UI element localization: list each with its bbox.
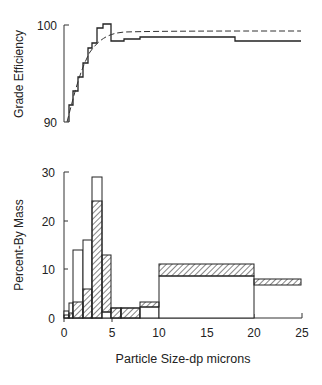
top-y-axis-label: Grade Efficiency xyxy=(12,30,26,118)
x-axis-label: Particle Size-dp microns xyxy=(116,352,251,366)
hatched-bar xyxy=(64,315,69,318)
top-ytick-100: 100 xyxy=(37,19,57,33)
hatched-bar xyxy=(102,255,111,312)
xtick-25: 25 xyxy=(295,326,309,340)
hatched-bar xyxy=(92,201,102,318)
bottom-ytick-20: 20 xyxy=(42,215,56,229)
top-ytick-90: 90 xyxy=(44,116,58,130)
hatched-bar xyxy=(111,308,121,318)
figure: Grade Efficiency 100 90 Percent-By Mass … xyxy=(0,0,322,385)
xtick-15: 15 xyxy=(200,326,214,340)
xtick-0: 0 xyxy=(61,326,68,340)
hatched-bar xyxy=(159,264,254,276)
xtick-10: 10 xyxy=(152,326,166,340)
hatched-bar xyxy=(83,289,92,318)
fitted-dashed-curve xyxy=(67,31,301,122)
grade-efficiency-chart: Grade Efficiency 100 90 xyxy=(12,19,301,130)
bottom-y-axis xyxy=(64,172,69,318)
hatched-bar xyxy=(254,279,301,285)
open-bar xyxy=(102,312,111,318)
hatched-bar xyxy=(69,313,73,318)
xtick-20: 20 xyxy=(247,326,261,340)
hatched-bar xyxy=(121,308,140,318)
top-y-axis xyxy=(64,25,69,122)
bottom-ytick-10: 10 xyxy=(42,263,56,277)
xtick-5: 5 xyxy=(109,326,116,340)
open-bar xyxy=(140,307,159,318)
bottom-ytick-30: 30 xyxy=(42,166,56,180)
open-bar xyxy=(159,276,254,318)
percent-by-mass-chart: Percent-By Mass 30 20 10 0 xyxy=(12,166,309,366)
bottom-y-axis-label: Percent-By Mass xyxy=(12,199,26,290)
hatched-bar xyxy=(73,302,83,318)
hatched-bar xyxy=(140,302,159,307)
bottom-ytick-0: 0 xyxy=(48,312,55,326)
